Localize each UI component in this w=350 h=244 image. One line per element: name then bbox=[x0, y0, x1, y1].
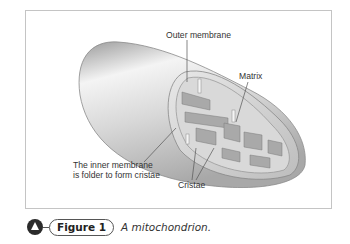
outer-membrane-label: Outer membrane bbox=[166, 30, 231, 40]
inner-membrane-label-line2: is folder to form cristae bbox=[73, 170, 160, 180]
figure-caption: Figure 1 A mitochondrion. bbox=[27, 218, 211, 236]
figure-number: Figure 1 bbox=[49, 219, 114, 236]
cristae-label: Cristae bbox=[178, 180, 205, 190]
figure-caption-text: A mitochondrion. bbox=[121, 221, 211, 233]
matrix-label: Matrix bbox=[239, 71, 262, 81]
triangle-badge-icon bbox=[27, 219, 43, 235]
inner-membrane-label: The inner membrane is folder to form cri… bbox=[73, 160, 160, 180]
inner-membrane-label-line1: The inner membrane bbox=[73, 160, 160, 170]
